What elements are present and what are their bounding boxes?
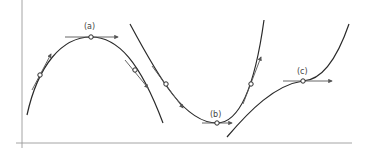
tangent-arrow-left-rising [32,54,51,90]
label-a: (a) [84,22,95,31]
curve-minimum [130,20,264,123]
stationary-points-diagram: (a) (b) (c) [0,0,365,148]
label-b: (b) [210,110,221,119]
curve-inflection [227,24,349,137]
tangent-arrow-mid-falling [152,66,183,108]
label-c: (c) [297,67,308,76]
point-mid-falling [164,82,168,86]
point-right-rising [249,82,253,86]
curve-maximum [27,37,163,123]
tangent-arrow-left-falling [125,60,148,88]
point-left-rising [38,73,42,77]
point-c-inflection [301,79,305,83]
point-left-falling [133,68,137,72]
point-b-minimum [215,121,219,125]
tangent-arrow-right-rising [243,57,261,104]
point-a-maximum [89,35,93,39]
